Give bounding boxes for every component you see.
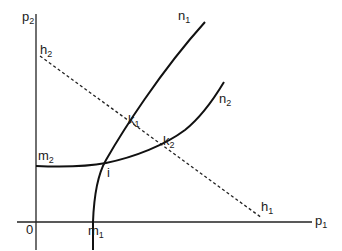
m2-label: m2 <box>38 148 54 165</box>
p1-axis-label: p1 <box>315 213 327 230</box>
economics-diagram: p2 h2 kn1 n2 k1 k2 m2 i 0 m1 h1 p1 <box>0 0 342 251</box>
k2-label: k2 <box>163 133 175 150</box>
i-label: i <box>107 165 110 180</box>
h1-label: h1 <box>261 199 273 216</box>
n1-label: kn1 <box>178 8 190 25</box>
h2-label: h2 <box>40 42 52 59</box>
h-dashed-line <box>40 56 262 218</box>
k1-label: k1 <box>128 112 140 129</box>
origin-label: 0 <box>26 222 33 237</box>
n2-label: n2 <box>219 91 231 108</box>
p2-axis-label: p2 <box>22 9 34 26</box>
n1-curve <box>93 22 205 250</box>
m1-label: m1 <box>88 223 104 240</box>
